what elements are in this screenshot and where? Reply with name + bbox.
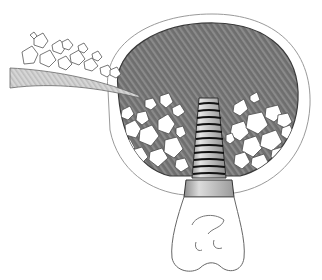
implant-diagram [0, 0, 322, 280]
crown [172, 197, 245, 271]
abutment-collar [184, 180, 234, 197]
